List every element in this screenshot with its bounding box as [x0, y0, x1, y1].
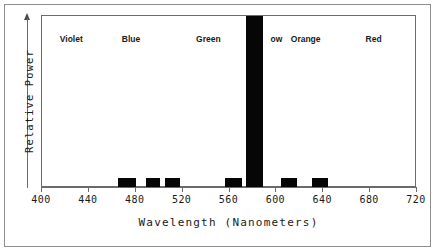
x-axis-tick-label: 400 [21, 194, 61, 205]
band-label-violet: Violet [41, 34, 101, 44]
x-axis-tick [369, 187, 370, 192]
plot-area: VioletBlueGreenYelowOrangeRed [41, 15, 416, 187]
x-axis-tick-label: 560 [209, 194, 249, 205]
x-axis-tick-label: 680 [349, 194, 389, 205]
x-axis-tick-label: 720 [396, 194, 436, 205]
band-label-orange: Orange [276, 34, 336, 44]
x-axis-tick [41, 187, 42, 192]
x-axis-tick-label: 440 [68, 194, 108, 205]
x-axis-tick [182, 187, 183, 192]
bar-yellow-peak [246, 16, 264, 188]
x-axis-tick-label: 640 [302, 194, 342, 205]
band-label-blue: Blue [101, 34, 161, 44]
x-axis-tick [416, 187, 417, 192]
x-axis-tick-label: 480 [115, 194, 155, 205]
x-axis-title: Wavelength (Nanometers) [41, 216, 416, 229]
spectral-power-chart: Relative Power VioletBlueGreenYelowOrang… [0, 0, 437, 252]
x-axis-tick-label: 600 [255, 194, 295, 205]
x-axis-tick-label: 520 [162, 194, 202, 205]
x-axis-tick [275, 187, 276, 192]
band-label-red: Red [344, 34, 404, 44]
x-axis-tick [229, 187, 230, 192]
x-axis-tick [88, 187, 89, 192]
y-axis-title: Relative Power [23, 21, 35, 181]
x-axis-tick [322, 187, 323, 192]
x-axis-tick [135, 187, 136, 192]
